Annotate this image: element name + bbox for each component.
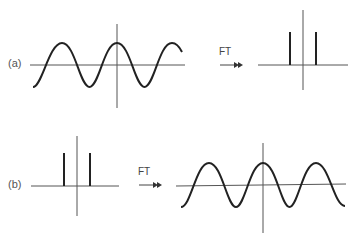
panel-b-x-axis	[176, 184, 346, 186]
panel-a-label: (a)	[8, 57, 21, 69]
panel-a-ft-arrow	[220, 62, 243, 68]
panel-b-spectrum-plot	[31, 136, 119, 216]
panel-b-label: (b)	[8, 178, 21, 190]
panel-b-cosine-plot	[176, 143, 346, 233]
panel-a-cosine-plot	[30, 24, 185, 108]
panel-b-ft-arrow	[139, 182, 162, 188]
panel-b-ft-label: FT	[138, 166, 150, 177]
panel-a-spectrum-plot	[258, 10, 348, 90]
panel-a-ft-label: FT	[219, 46, 231, 57]
fourier-transform-diagram	[0, 0, 359, 243]
